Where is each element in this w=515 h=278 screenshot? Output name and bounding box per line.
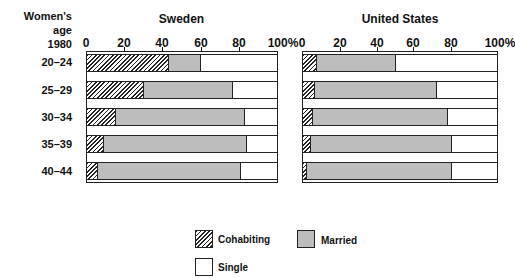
married-segment: [315, 82, 437, 98]
cohabiting-segment: [87, 82, 144, 98]
sweden-bar-40-44: [86, 162, 278, 180]
single-segment: [452, 163, 497, 179]
single-segment: [247, 136, 277, 152]
category-label: 30–34: [2, 111, 72, 123]
sweden-bar-20-24: [86, 54, 278, 72]
y-axis-title-line2: age: [2, 24, 72, 36]
married-segment: [307, 163, 453, 179]
married-segment: [311, 136, 453, 152]
x-tick-mark: [377, 47, 378, 52]
single-segment: [396, 55, 497, 71]
legend-single-swatch: [195, 258, 213, 276]
married-segment: [116, 109, 245, 125]
x-tick-mark: [413, 47, 414, 52]
sweden-bar-30-34: [86, 108, 278, 126]
us-bar-35-39: [302, 135, 498, 153]
sweden-bar-25-29: [86, 81, 278, 99]
category-label: 40–44: [2, 165, 72, 177]
category-label: 20–24: [2, 56, 72, 68]
single-segment: [201, 55, 277, 71]
us-bar-20-24: [302, 54, 498, 72]
x-tick-label: 100%: [485, 36, 515, 50]
legend-single-label: Single: [218, 262, 248, 273]
cohabiting-segment: [87, 163, 98, 179]
cohabiting-segment: [303, 136, 311, 152]
legend-married-swatch: [297, 230, 315, 248]
single-segment: [245, 109, 277, 125]
single-segment: [452, 136, 497, 152]
y-axis-title-line1: Women's: [2, 10, 72, 22]
x-tick-mark: [451, 47, 452, 52]
cohabiting-segment: [303, 55, 317, 71]
single-segment: [233, 82, 277, 98]
sweden-bar-35-39: [86, 135, 278, 153]
cohabiting-segment: [87, 55, 169, 71]
x-tick-mark: [124, 47, 125, 52]
us-chart-title: United States: [302, 12, 498, 26]
x-tick-mark: [162, 47, 163, 52]
married-segment: [313, 109, 449, 125]
us-bar-25-29: [302, 81, 498, 99]
x-tick-label: 0: [83, 36, 90, 50]
us-bar-30-34: [302, 108, 498, 126]
cohabiting-segment: [87, 136, 104, 152]
married-segment: [98, 163, 241, 179]
single-segment: [437, 82, 497, 98]
cohabiting-segment: [303, 109, 313, 125]
y-axis-title-line3: 1980: [2, 38, 72, 50]
x-tick-mark: [340, 47, 341, 52]
us-bar-40-44: [302, 162, 498, 180]
x-tick-label: 0: [299, 36, 306, 50]
x-tick-mark: [239, 47, 240, 52]
single-segment: [241, 163, 277, 179]
category-label: 35–39: [2, 138, 72, 150]
x-tick-label: 100%: [268, 36, 299, 50]
category-label: 25–29: [2, 84, 72, 96]
sweden-chart-title: Sweden: [86, 12, 277, 26]
cohabiting-segment: [87, 109, 116, 125]
legend-cohabiting-swatch: [195, 230, 213, 248]
x-tick-mark: [201, 47, 202, 52]
married-segment: [144, 82, 233, 98]
legend-cohabiting-label: Cohabiting: [218, 234, 270, 245]
cohabiting-segment: [303, 82, 315, 98]
legend-married-label: Married: [321, 235, 357, 246]
single-segment: [448, 109, 497, 125]
married-segment: [104, 136, 247, 152]
married-segment: [169, 55, 201, 71]
married-segment: [317, 55, 397, 71]
